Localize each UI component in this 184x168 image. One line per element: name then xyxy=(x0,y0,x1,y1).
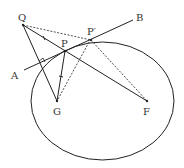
label-g: G xyxy=(53,106,61,117)
point-f xyxy=(146,100,148,102)
point-g xyxy=(56,100,58,102)
geometry-diagram: Q P P′ A B G F xyxy=(0,0,184,168)
point-p-prime xyxy=(90,39,92,41)
label-b: B xyxy=(136,12,143,23)
segment-qf xyxy=(23,25,147,101)
label-p-prime: P′ xyxy=(87,26,97,37)
segment-qg xyxy=(23,25,57,101)
label-a: A xyxy=(10,70,19,81)
label-f: F xyxy=(143,106,150,117)
label-q: Q xyxy=(18,12,26,23)
tangent-line-ab xyxy=(24,20,133,70)
ellipse xyxy=(31,42,174,160)
dashed-qp-prime xyxy=(23,25,91,40)
label-p: P xyxy=(61,38,68,49)
point-p xyxy=(64,50,66,52)
point-q xyxy=(22,24,24,26)
dashed-p-prime-f xyxy=(91,40,147,101)
tick-mark-pg xyxy=(59,76,63,77)
